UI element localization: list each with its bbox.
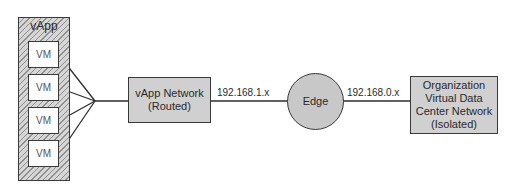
vapp-network-type: (Routed) <box>148 100 191 113</box>
edge-label: Edge <box>303 95 329 108</box>
vm-box-3: VM <box>28 107 59 134</box>
vapp-network-title: vApp Network <box>135 87 203 100</box>
edge-gateway-circle: Edge <box>287 73 344 130</box>
org-network-line2: Virtual Data <box>425 92 482 105</box>
org-network-line4: (Isolated) <box>431 118 477 131</box>
vm-box-4: VM <box>28 140 59 167</box>
vapp-label: vApp <box>19 20 69 33</box>
vm-box-2: VM <box>28 74 59 101</box>
link-label-192-168-1: 192.168.1.x <box>217 87 269 98</box>
link-label-192-168-0: 192.168.0.x <box>347 87 399 98</box>
vm-box-1: VM <box>28 41 59 68</box>
org-network-line3: Center Network <box>416 105 492 118</box>
org-network-line1: Organization <box>423 79 485 92</box>
vapp-network-box: vApp Network (Routed) <box>128 77 211 123</box>
org-vdc-network-box: Organization Virtual Data Center Network… <box>410 76 498 134</box>
